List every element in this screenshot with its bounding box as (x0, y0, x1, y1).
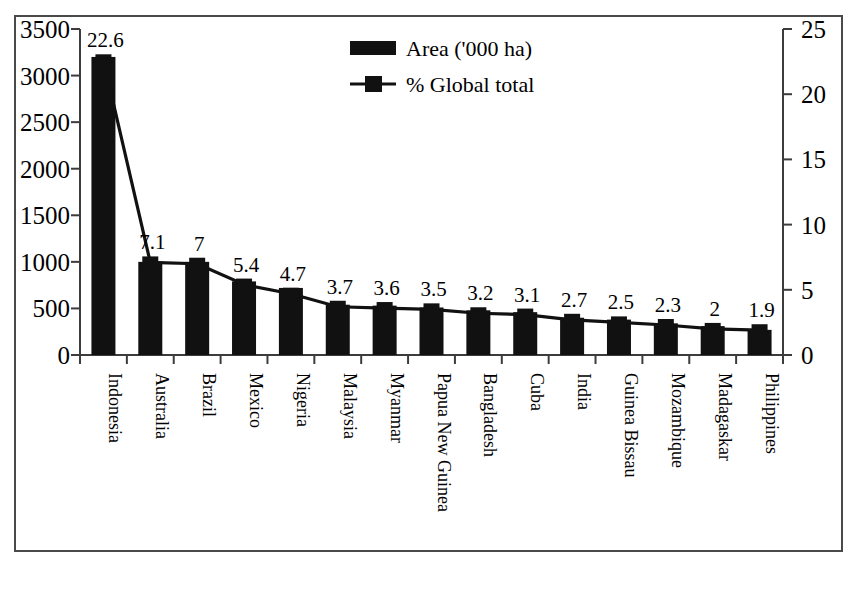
y-axis-left-tick-label: 1500 (20, 202, 70, 229)
y-axis-right-tick-label: 20 (801, 81, 826, 108)
data-point-label: 3.1 (514, 283, 540, 307)
line-marker (658, 319, 674, 331)
chart-figure: 0500100015002000250030003500 0510152025 … (0, 0, 859, 589)
data-point-label: 1.9 (748, 298, 774, 322)
x-axis-category-label: Nigeria (293, 373, 313, 427)
data-point-label: 2.5 (608, 290, 634, 314)
line-marker (564, 314, 580, 326)
y-axis-left-tick-label: 3000 (20, 63, 70, 90)
x-axis-category-labels: IndonesiaAustraliaBrazilMexicoNigeriaMal… (105, 373, 781, 512)
legend-swatch-bar (350, 41, 396, 55)
y-axis-left-tick-label: 3500 (20, 16, 70, 43)
legend-swatch-marker (365, 76, 382, 92)
x-axis-category-label: Myanmar (387, 373, 407, 443)
data-point-label: 3.7 (327, 275, 353, 299)
data-point-label: 3.5 (420, 277, 446, 301)
y-axis-left-tick-label: 0 (58, 342, 71, 369)
line-marker (236, 279, 252, 291)
line-marker (330, 301, 346, 313)
data-point-label: 2.7 (561, 288, 587, 312)
data-point-label: 2 (709, 297, 720, 321)
data-point-label: 4.7 (280, 262, 306, 286)
data-point-label: 7.1 (139, 230, 165, 254)
y-axis-left-tick-label: 1000 (20, 249, 70, 276)
line-marker (705, 323, 721, 335)
data-point-label: 3.2 (467, 281, 493, 305)
data-point-label: 3.6 (374, 276, 400, 300)
line-marker (424, 303, 440, 315)
y-axis-right-ticks (783, 29, 792, 355)
y-axis-left-tick-label: 500 (33, 295, 71, 322)
bar (185, 262, 209, 355)
x-axis-category-label: Cuba (527, 373, 547, 411)
chart-legend: Area ('000 ha)% Global total (350, 36, 534, 97)
chart-canvas: 0500100015002000250030003500 0510152025 … (0, 0, 859, 589)
x-axis-category-label: Papua New Guinea (434, 373, 454, 512)
line-marker (470, 307, 486, 319)
data-point-label: 2.3 (655, 293, 681, 317)
data-point-label: 22.6 (87, 28, 124, 52)
y-axis-right-tick-labels: 0510152025 (801, 16, 826, 369)
x-axis-category-label: Mozambique (668, 373, 688, 468)
x-axis-category-label: Philippines (762, 373, 782, 454)
line-marker (517, 309, 533, 321)
x-axis-category-label: Brazil (199, 373, 219, 417)
data-point-label: 7 (194, 232, 205, 256)
y-axis-left-ticks (71, 29, 80, 355)
line-marker (283, 288, 299, 300)
x-axis-category-label: Malaysia (340, 373, 360, 439)
x-axis-category-label: Madagaskar (715, 373, 735, 461)
data-point-label: 5.4 (233, 253, 260, 277)
y-axis-right-tick-label: 0 (801, 342, 814, 369)
y-axis-right-tick-label: 5 (801, 277, 814, 304)
line-marker (752, 324, 768, 336)
y-axis-right-tick-label: 15 (801, 146, 826, 173)
x-axis-category-label: Mexico (246, 373, 266, 428)
line-marker (611, 316, 627, 328)
x-axis-category-label: India (574, 373, 594, 410)
x-axis-category-label: Guinea Bissau (621, 373, 641, 477)
legend-label-area: Area ('000 ha) (406, 36, 532, 61)
y-axis-right-tick-label: 10 (801, 212, 826, 239)
bar (232, 281, 256, 355)
line-marker (142, 256, 158, 268)
x-axis-category-label: Bangladesh (480, 373, 500, 457)
y-axis-right-tick-label: 25 (801, 16, 826, 43)
y-axis-left-tick-label: 2000 (20, 156, 70, 183)
line-marker (377, 302, 393, 314)
x-axis-ticks (80, 355, 783, 364)
legend-label-percent: % Global total (406, 72, 534, 97)
line-marker (95, 54, 111, 66)
bar (138, 262, 162, 355)
y-axis-left-tick-label: 2500 (20, 109, 70, 136)
y-axis-left-tick-labels: 0500100015002000250030003500 (20, 16, 70, 369)
x-axis-category-label: Australia (152, 373, 172, 439)
line-marker (189, 258, 205, 270)
x-axis-category-label: Indonesia (105, 373, 125, 443)
